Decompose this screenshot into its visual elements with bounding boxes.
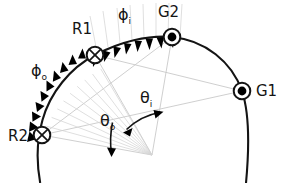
label-theta-o-base: θ <box>100 111 110 130</box>
marker-g2[interactable] <box>164 29 181 46</box>
label-theta-i-base: θ <box>140 88 150 107</box>
inner-arrow <box>146 39 154 51</box>
label-g2: G2 <box>158 3 179 21</box>
marker-r2[interactable] <box>34 127 51 144</box>
label-r1: R1 <box>72 20 92 38</box>
marker-r1[interactable] <box>87 47 104 64</box>
label-theta-i-sub: i <box>150 99 153 109</box>
outer-arrow <box>41 91 50 102</box>
label-phi-i: ϕi <box>118 5 131 26</box>
label-phi-o: ϕo <box>31 61 48 82</box>
inner-arrow <box>114 47 122 59</box>
chord-r1-g1 <box>95 55 242 91</box>
marker-g2-dot <box>168 33 177 42</box>
marker-g1-dot <box>238 87 247 96</box>
outer-arrow <box>78 49 86 59</box>
label-theta-o-sub: o <box>110 122 116 132</box>
outer-arrow <box>47 81 55 92</box>
outer-arrow <box>36 102 45 112</box>
label-theta-i: θi <box>140 88 152 109</box>
inner-arrow <box>135 41 143 53</box>
arc-geometry-figure: R1 R2 G2 G1 ϕi ϕo θi θo <box>0 0 285 183</box>
label-phi-i-sub: i <box>129 16 132 26</box>
label-theta-o: θo <box>100 111 116 132</box>
label-phi-o-sub: o <box>42 72 48 82</box>
outer-arrow <box>53 71 61 82</box>
label-r2: R2 <box>8 127 28 145</box>
theta-o-arrowhead <box>107 148 116 158</box>
label-phi-o-base: ϕ <box>31 61 42 80</box>
diagram-canvas: R1 R2 G2 G1 ϕi ϕo θi θo <box>0 0 285 183</box>
inner-arrow <box>104 51 111 63</box>
outer-arrow <box>69 55 78 66</box>
label-g1: G1 <box>256 82 277 100</box>
outer-arrow <box>60 62 69 73</box>
radius-center-g2 <box>152 37 172 155</box>
marker-g1[interactable] <box>234 83 251 100</box>
outer-arrow <box>32 112 41 122</box>
label-phi-i-base: ϕ <box>118 5 129 24</box>
inner-arrow <box>124 43 132 55</box>
